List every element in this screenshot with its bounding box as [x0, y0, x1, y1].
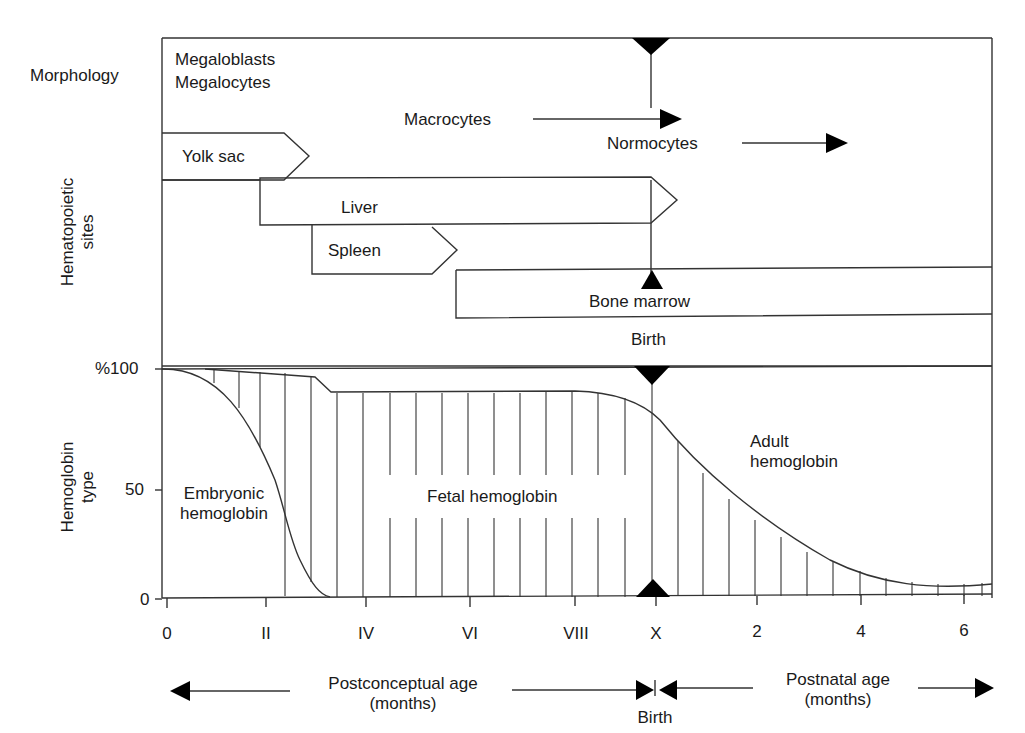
label-birth-sites: Birth: [631, 330, 666, 350]
x-tick-viii: VIII: [558, 624, 594, 644]
label-megalocytes: Megalocytes: [175, 73, 270, 93]
label-normocytes: Normocytes: [607, 134, 698, 154]
bone-marrow-bar: [456, 270, 992, 318]
label-macrocytes: Macrocytes: [404, 110, 491, 130]
liver-bar: [162, 177, 677, 225]
birth-marker-axis: [636, 579, 670, 597]
birth-marker-top: [632, 38, 670, 55]
label-bone-marrow: Bone marrow: [589, 292, 690, 312]
y-tick-50: 50: [125, 480, 144, 500]
x-tick-2: 2: [742, 622, 772, 642]
x-tick-4: 4: [846, 622, 876, 642]
x-axis: [162, 594, 992, 598]
label-fetal-hemoglobin: Fetal hemoglobin: [427, 487, 557, 507]
x-tick-iv: IV: [351, 624, 381, 644]
x-tick-vi: VI: [455, 624, 485, 644]
label-embryonic-hemoglobin: Embryonic hemoglobin: [168, 484, 280, 524]
label-birth-axis: Birth: [625, 708, 685, 728]
label-yolk-sac: Yolk sac: [182, 147, 245, 167]
row-label-morphology: Morphology: [30, 66, 119, 86]
x-tick-0: 0: [152, 624, 182, 644]
x-tick-ii: II: [251, 624, 281, 644]
y-tick-100: %100: [95, 359, 138, 379]
row-label-hemoglobin-type: Hemoglobin type: [58, 437, 102, 537]
x-tick-6: 6: [949, 621, 979, 641]
x-tick-x: X: [641, 624, 671, 644]
label-adult-hemoglobin: Adult hemoglobin: [750, 432, 838, 472]
hatching: [214, 370, 982, 597]
label-postconceptual-age: Postconceptual age (months): [296, 674, 510, 714]
birth-marker-bone-marrow: [641, 270, 663, 289]
label-megaloblasts: Megaloblasts: [175, 50, 275, 70]
embryonic-curve: [162, 369, 330, 597]
label-spleen: Spleen: [328, 241, 381, 261]
label-postnatal-age: Postnatal age (months): [758, 670, 918, 710]
birth-marker-hemoglobin: [634, 366, 670, 385]
y-tick-0: 0: [140, 590, 149, 610]
row-label-hematopoietic-sites: Hematopoietic sites: [58, 172, 102, 292]
label-liver: Liver: [341, 198, 378, 218]
